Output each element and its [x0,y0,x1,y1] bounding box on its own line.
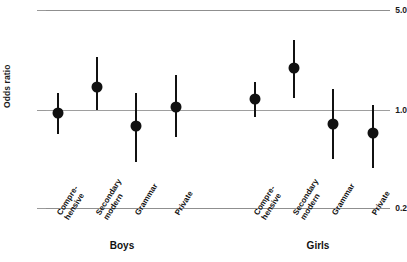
data-point [53,108,64,119]
cat-label-line1: Grammar [330,182,356,217]
cat-label-line1: Grammar [133,182,159,217]
data-point [368,128,379,139]
x-category-label-girls-grammar: Grammar [330,182,356,217]
data-point [250,94,261,105]
data-point [92,82,103,93]
y-axis-title: Odds ratio [2,28,12,108]
data-point [131,121,142,132]
data-point [328,119,339,130]
group-label-boys: Boys [110,240,134,251]
x-category-label-boys-private: Private [173,189,195,216]
x-category-label-boys-grammar: Grammar [133,182,159,217]
x-category-label-boys-secondary-modern: Secondary modern [94,177,131,221]
cat-label-line1: Private [173,189,195,216]
y-tick-mark-1 [37,110,46,111]
x-category-label-girls-comprehensive: Compre- hensive [252,184,285,221]
x-category-label-girls-secondary-modern: Secondary modern [291,177,328,221]
y-tick-mark-5 [37,10,46,11]
odds-ratio-forest-plot: Odds ratio 5.0 1.0 0.2 Compre- hensive S… [0,0,407,262]
data-point [289,63,300,74]
data-point [171,102,182,113]
x-category-label-boys-comprehensive: Compre- hensive [55,184,88,221]
gridline-5 [46,10,390,11]
y-tick-mark-0-2 [37,208,46,209]
gridline-reference-1 [46,110,390,111]
group-label-girls: Girls [307,240,330,251]
